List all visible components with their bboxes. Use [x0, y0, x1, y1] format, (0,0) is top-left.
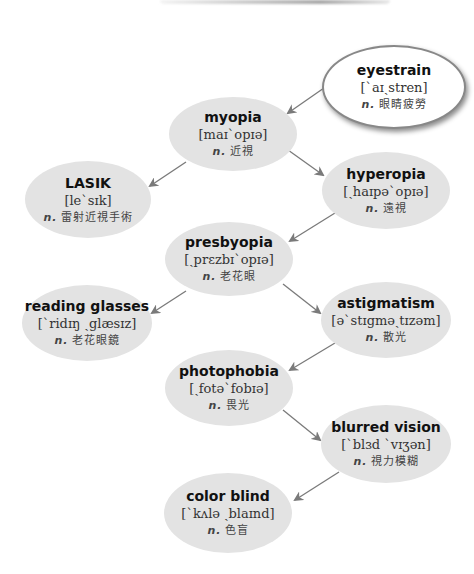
node-term: astigmatism [337, 294, 435, 312]
node-blurred-vision: blurred vision [ˋblɜd ˋvɪʒən] n.視力模糊 [321, 405, 451, 483]
definition-text: 雷射近視手術 [61, 211, 133, 224]
part-of-speech: n. [361, 98, 375, 111]
node-phonetic: [ˋridɪŋ ˏglæsɪz] [38, 315, 137, 333]
node-phonetic: [ˋkʌlə ˏblaɪnd] [181, 505, 274, 523]
node-phonetic: [ˏfotəˋfobɪə] [189, 380, 268, 398]
part-of-speech: n. [212, 145, 226, 158]
part-of-speech: n. [43, 211, 57, 224]
part-of-speech: n. [54, 334, 68, 347]
node-definition: n.畏光 [208, 398, 249, 414]
arrow-hyperopia-presbyopia [290, 213, 335, 241]
node-phonetic: [maɪˋopɪə] [199, 126, 268, 144]
part-of-speech: n. [207, 524, 221, 537]
node-definition: n.雷射近視手術 [43, 210, 132, 226]
node-definition: n.眼睛疲勞 [361, 97, 426, 113]
arrow-presbyopia-reading-glasses [152, 291, 186, 313]
node-phonetic: [ˋblɜd ˋvɪʒən] [341, 436, 431, 454]
arrow-presbyopia-astigmatism [283, 284, 320, 313]
node-definition: n.老花眼 [202, 269, 255, 285]
node-phonetic: [ˏprɛzbɪˋopɪə] [184, 251, 274, 269]
arrow-blurred-vision-color-blind [295, 472, 339, 500]
node-photophobia: photophobia [ˏfotəˋfobɪə] n.畏光 [165, 350, 293, 426]
node-term: eyestrain [357, 61, 431, 79]
arrow-astigmatism-photophobia [290, 343, 335, 370]
node-term: LASIK [65, 174, 111, 192]
node-term: myopia [204, 108, 262, 126]
node-presbyopia: presbyopia [ˏprɛzbɪˋopɪə] n.老花眼 [165, 222, 293, 296]
node-phonetic: [əˋstɪgməˏtɪzəm] [331, 312, 440, 330]
definition-text: 色盲 [225, 524, 249, 537]
node-term: reading glasses [25, 297, 149, 315]
node-phonetic: [ˏhaɪpəˋopɪə] [343, 183, 428, 201]
definition-text: 散光 [383, 331, 407, 344]
node-term: hyperopia [346, 165, 425, 183]
node-astigmatism: astigmatism [əˋstɪgməˏtɪzəm] n.散光 [321, 282, 451, 358]
node-term: blurred vision [331, 418, 441, 436]
definition-text: 眼睛疲勞 [379, 98, 427, 111]
definition-text: 畏光 [226, 399, 250, 412]
node-phonetic: [leˋsɪk] [64, 192, 111, 210]
part-of-speech: n. [208, 399, 222, 412]
arrow-photophobia-blurred-vision [283, 410, 320, 440]
node-term: color blind [186, 487, 270, 505]
node-lasik: LASIK [leˋsɪk] n.雷射近視手術 [25, 161, 151, 238]
node-term: presbyopia [185, 233, 273, 251]
node-definition: n.視力模糊 [353, 454, 418, 470]
node-definition: n.近視 [212, 144, 253, 160]
part-of-speech: n. [365, 202, 379, 215]
part-of-speech: n. [365, 331, 379, 344]
definition-text: 視力模糊 [371, 455, 419, 468]
node-hyperopia: hyperopia [ˏhaɪpəˋopɪə] n.遠視 [322, 152, 450, 229]
node-color-blind: color blind [ˋkʌlə ˏblaɪnd] n.色盲 [164, 473, 292, 553]
definition-text: 老花眼 [220, 270, 256, 283]
node-eyestrain: eyestrain [ˋaɪˏstren] n.眼睛疲勞 [322, 45, 466, 129]
node-definition: n.散光 [365, 330, 406, 346]
part-of-speech: n. [202, 270, 216, 283]
node-definition: n.色盲 [207, 523, 248, 539]
node-phonetic: [ˋaɪˏstren] [360, 79, 427, 97]
node-term: photophobia [179, 362, 279, 380]
definition-text: 老花眼鏡 [72, 334, 120, 347]
definition-text: 近視 [230, 145, 254, 158]
node-reading-glasses: reading glasses [ˋridɪŋ ˏglæsɪz] n.老花眼鏡 [22, 285, 152, 361]
node-definition: n.老花眼鏡 [54, 333, 119, 349]
node-myopia: myopia [maɪˋopɪə] n.近視 [169, 97, 297, 171]
arrow-eyestrain-myopia [288, 88, 324, 113]
definition-text: 遠視 [383, 202, 407, 215]
arrow-myopia-lasik [150, 162, 186, 186]
node-definition: n.遠視 [365, 201, 406, 217]
part-of-speech: n. [353, 455, 367, 468]
arrow-myopia-hyperopia [288, 150, 323, 175]
